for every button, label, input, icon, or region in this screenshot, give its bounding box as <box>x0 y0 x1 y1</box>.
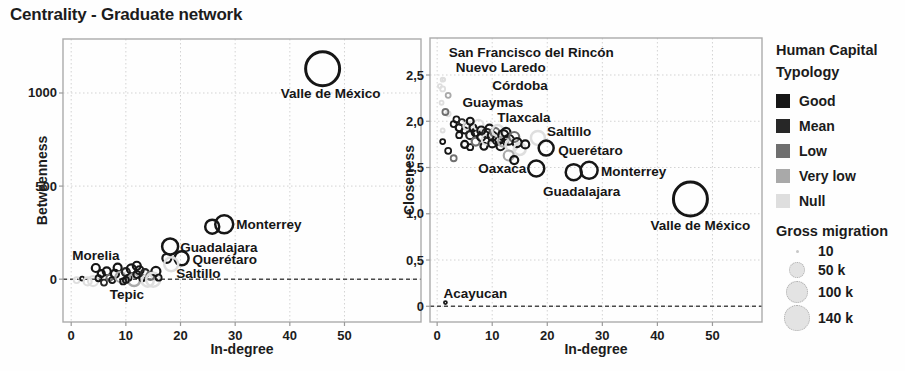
scatter-point <box>445 148 451 154</box>
panel-betweenness: 0102030405005001000In-degreeBetweennessV… <box>28 39 421 357</box>
city-label-san-francisco-del-rincón: San Francisco del Rincón <box>449 45 614 60</box>
x-tick-label: 50 <box>705 328 719 343</box>
size-circle <box>789 262 805 278</box>
size-circle-icon <box>776 305 818 331</box>
city-label-querétaro: Querétaro <box>558 143 623 158</box>
x-axis-title: In-degree <box>564 341 627 357</box>
scatter-point-morelia <box>92 264 100 272</box>
scatter-point <box>440 101 444 105</box>
city-label-nuevo-laredo: Nuevo Laredo <box>456 60 546 75</box>
size-circle <box>796 250 799 253</box>
typology-label: Mean <box>799 118 835 134</box>
scatter-point-nuevo-laredo <box>440 86 445 91</box>
size-circle-icon <box>776 281 818 303</box>
typology-item-good: Good <box>776 89 904 114</box>
typology-item-very-low: Very low <box>776 164 904 189</box>
typology-swatch-good <box>776 94 790 108</box>
size-item-100-k: 100 k <box>776 280 904 304</box>
city-label-monterrey: Monterrey <box>236 217 302 232</box>
scatter-point <box>456 132 462 138</box>
scatter-point <box>440 139 445 144</box>
city-label-tepic: Tepic <box>110 287 145 302</box>
typology-swatch-null <box>776 194 790 208</box>
typology-item-null: Null <box>776 189 904 214</box>
size-legend-items: 1050 k100 k140 k <box>776 242 904 332</box>
figure: Centrality - Graduate network 0102030405… <box>0 0 905 371</box>
city-label-saltillo: Saltillo <box>176 266 220 281</box>
scatter-point-acayucan <box>444 301 447 304</box>
city-label-córdoba: Córdoba <box>492 78 548 93</box>
typology-label: Null <box>799 193 825 209</box>
city-label-tlaxcala: Tlaxcala <box>497 110 551 125</box>
x-tick-label: 10 <box>485 328 499 343</box>
typology-legend-title: Human Capital Typology <box>776 40 904 84</box>
y-tick-label: 0 <box>417 299 424 314</box>
typology-label: Very low <box>799 168 856 184</box>
typology-swatch-low <box>776 144 790 158</box>
scatter-point <box>441 129 445 133</box>
x-tick-label: 40 <box>283 328 297 343</box>
y-tick-label: 1000 <box>28 85 57 100</box>
scatter-point-guadalajara <box>162 238 178 254</box>
y-axis-title: Betweenness <box>34 136 50 226</box>
size-item-140-k: 140 k <box>776 304 904 332</box>
size-label: 10 <box>818 243 834 259</box>
city-label-guadalajara: Guadalajara <box>543 184 621 199</box>
x-tick-label: 20 <box>540 328 554 343</box>
scatter-point-valle-de-méxico <box>673 182 707 216</box>
typology-label: Good <box>799 93 836 109</box>
y-tick-label: 0 <box>50 272 57 287</box>
size-item-10: 10 <box>776 242 904 261</box>
size-circle <box>784 305 810 331</box>
city-label-guaymas: Guaymas <box>462 95 523 110</box>
size-legend-title: Gross migration <box>776 223 904 239</box>
city-label-monterrey: Monterrey <box>601 164 667 179</box>
scatter-point <box>101 280 107 286</box>
size-label: 140 k <box>818 310 853 326</box>
scatter-point <box>74 277 80 283</box>
x-tick-label: 10 <box>119 328 133 343</box>
x-tick-label: 0 <box>434 328 441 343</box>
typology-item-low: Low <box>776 139 904 164</box>
city-label-saltillo: Saltillo <box>547 124 591 139</box>
scatter-point-guadalajara <box>566 164 582 180</box>
city-label-valle-de-méxico: Valle de México <box>651 218 751 233</box>
x-tick-label: 0 <box>68 328 75 343</box>
typology-swatch-very-low <box>776 169 790 183</box>
x-tick-label: 20 <box>173 328 187 343</box>
typology-label: Low <box>799 143 827 159</box>
legend: Human Capital Typology GoodMeanLowVery l… <box>776 40 904 332</box>
size-circle <box>786 281 808 303</box>
city-label-oaxaca: Oaxaca <box>478 161 527 176</box>
city-label-acayucan: Acayucan <box>443 286 507 301</box>
size-label: 50 k <box>818 262 845 278</box>
x-tick-label: 40 <box>650 328 664 343</box>
x-tick-label: 50 <box>337 328 351 343</box>
scatter-point-monterrey <box>581 162 598 179</box>
y-tick-label: 2,5 <box>406 68 424 83</box>
y-tick-label: 2,0 <box>406 114 424 129</box>
typology-swatch-mean <box>776 119 790 133</box>
size-circle-icon <box>776 262 818 278</box>
size-label: 100 k <box>818 284 853 300</box>
y-tick-label: 0,5 <box>406 253 424 268</box>
city-label-morelia: Morelia <box>72 248 120 263</box>
size-item-50-k: 50 k <box>776 261 904 280</box>
size-circle-icon <box>776 250 818 253</box>
scatter-plots: 0102030405005001000In-degreeBetweennessV… <box>0 0 905 371</box>
x-axis-title: In-degree <box>210 341 273 357</box>
typology-item-mean: Mean <box>776 114 904 139</box>
scatter-point <box>451 155 457 161</box>
city-label-querétaro: Querétaro <box>193 252 258 267</box>
scatter-point-córdoba <box>446 93 451 98</box>
typology-legend-items: GoodMeanLowVery lowNull <box>776 89 904 214</box>
y-axis-title: Closeness <box>401 145 417 215</box>
city-label-valle-de-méxico: Valle de México <box>281 86 381 101</box>
panel-closeness: 0102030405000,51,01,52,02,5In-degreeClos… <box>401 38 762 357</box>
scatter-point-oaxaca <box>528 160 544 176</box>
scatter-point-querétaro <box>539 141 554 156</box>
scatter-point-valle-de-méxico <box>306 52 340 86</box>
